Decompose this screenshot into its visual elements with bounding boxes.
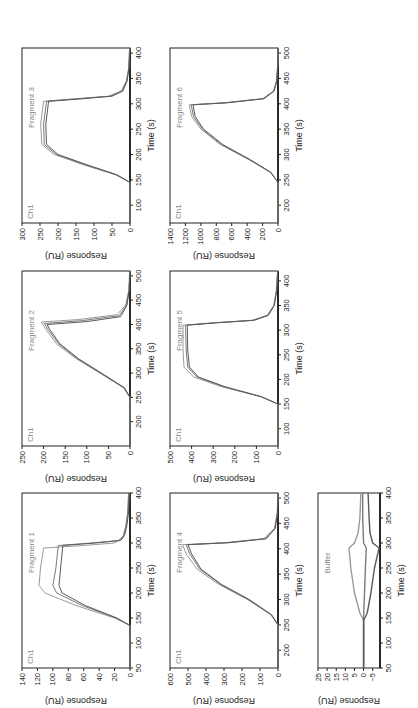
x-tick-label: 300 (384, 537, 393, 550)
y-tick-label: 25 (314, 673, 323, 681)
plot-frame (318, 493, 380, 668)
y-tick-label: 20 (323, 673, 332, 681)
x-tick-label: 100 (384, 637, 393, 650)
chart-buffer: 50100150200250300350400−50510152025Time … (0, 0, 418, 708)
y-tick-label: 5 (350, 673, 359, 677)
y-axis-label: Response (RU) (318, 696, 380, 706)
x-tick-label: 200 (384, 587, 393, 600)
panel-label: Buffer (323, 552, 332, 574)
x-tick-label: 50 (384, 664, 393, 672)
x-tick-label: 400 (384, 487, 393, 500)
y-tick-label: 10 (341, 673, 350, 681)
x-axis-label: Time (s) (396, 564, 406, 597)
y-tick-label: 15 (332, 673, 341, 681)
y-tick-label: 0 (359, 673, 368, 677)
series-line (364, 493, 380, 668)
x-tick-label: 150 (384, 612, 393, 625)
series-line (349, 493, 364, 668)
figure-canvas: 5010015020025030035040002040608010012014… (0, 0, 418, 708)
x-tick-label: 250 (384, 562, 393, 575)
x-tick-label: 350 (384, 512, 393, 525)
y-tick-label: −5 (368, 673, 377, 682)
